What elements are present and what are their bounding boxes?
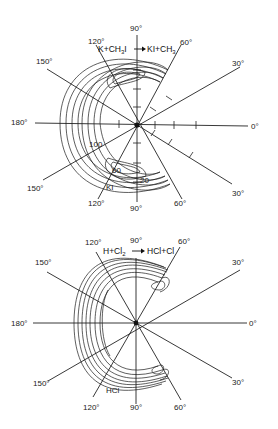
svg-text:120°: 120° [88, 37, 105, 46]
svg-text:120°: 120° [85, 238, 102, 247]
angle-labels-top: 90° 120° 60° 150° 30° 180° 0° 150° 30° 1… [11, 24, 259, 213]
product-label: HCl [106, 386, 120, 395]
svg-text:30°: 30° [232, 59, 244, 68]
svg-text:180°: 180° [11, 118, 28, 127]
polar-contour-diagram-bottom: H+Cl2 HCl+Cl HCl 90° 120° 60° 150° 30° 1… [11, 236, 257, 412]
radial-axes-bottom [33, 247, 247, 404]
svg-text:120°: 120° [88, 199, 105, 208]
contour-label: 100 [89, 140, 103, 149]
contour-lines-bottom [74, 258, 169, 390]
svg-text:150°: 150° [33, 379, 50, 388]
svg-text:150°: 150° [27, 184, 44, 193]
svg-text:60°: 60° [180, 38, 192, 47]
svg-text:30°: 30° [232, 258, 244, 267]
svg-text:90°: 90° [130, 24, 142, 33]
svg-text:120°: 120° [83, 403, 100, 412]
svg-text:30°: 30° [232, 378, 244, 387]
figure: 20 60 100 K+CH3I KI+CH3 KI 90° 120° 60° … [0, 0, 278, 429]
svg-text:30°: 30° [232, 189, 244, 198]
svg-text:150°: 150° [36, 57, 53, 66]
contour-label: 60 [112, 166, 121, 175]
reaction-equation-bottom: H+Cl2 HCl+Cl [103, 246, 174, 257]
svg-text:60°: 60° [178, 237, 190, 246]
svg-text:90°: 90° [130, 403, 142, 412]
polar-contour-diagram-top: 20 60 100 K+CH3I KI+CH3 KI 90° 120° 60° … [11, 24, 259, 213]
svg-text:150°: 150° [35, 258, 52, 267]
contour-label: 20 [140, 176, 149, 185]
svg-text:0°: 0° [251, 122, 259, 131]
svg-text:180°: 180° [11, 319, 28, 328]
svg-text:KI+CH3: KI+CH3 [147, 44, 176, 55]
svg-text:HCl+Cl: HCl+Cl [147, 246, 174, 256]
product-label: KI [106, 183, 114, 192]
svg-text:90°: 90° [130, 236, 142, 245]
svg-text:90°: 90° [130, 204, 142, 213]
svg-text:60°: 60° [174, 403, 186, 412]
origin-dot [134, 122, 139, 127]
svg-text:60°: 60° [174, 199, 186, 208]
svg-text:H+Cl2: H+Cl2 [103, 246, 126, 257]
svg-text:0°: 0° [249, 319, 257, 328]
origin-dot [134, 321, 139, 326]
